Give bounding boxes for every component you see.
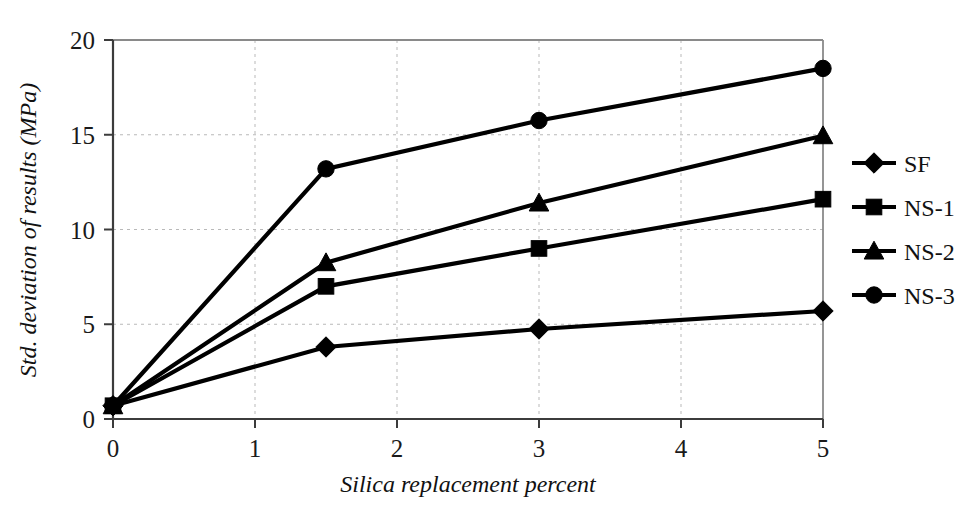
chart-figure: 05101520 012345 Silica replacement perce…: [0, 0, 964, 509]
y-tick-label-5: 5: [83, 311, 96, 338]
y-axis-title: Std. deviation of results (MPa): [15, 83, 41, 377]
data-point-ns-1-3: [815, 191, 831, 207]
chart-background: [0, 0, 964, 509]
x-tick-label-0: 0: [107, 435, 120, 462]
circle-marker-icon: [866, 287, 882, 303]
x-tick-label-1: 1: [249, 435, 262, 462]
data-point-ns-3-3: [815, 60, 831, 76]
legend-label-ns-2: NS-2: [904, 239, 955, 265]
x-tick-label-5: 5: [817, 435, 830, 462]
data-point-ns-1-1: [318, 279, 334, 295]
square-marker-icon: [866, 199, 882, 215]
data-point-ns-3-1: [318, 161, 334, 177]
x-axis-title: Silica replacement percent: [340, 471, 597, 497]
legend-label-ns-3: NS-3: [904, 283, 955, 309]
y-tick-label-10: 10: [70, 217, 95, 244]
x-tick-label-4: 4: [675, 435, 688, 462]
line-chart: 05101520 012345 Silica replacement perce…: [0, 0, 964, 509]
data-point-ns-1-2: [531, 241, 547, 257]
y-tick-label-20: 20: [70, 27, 95, 54]
legend-label-sf: SF: [904, 151, 931, 177]
y-tick-label-15: 15: [70, 122, 95, 149]
x-tick-label-2: 2: [391, 435, 404, 462]
data-point-ns-3-0: [105, 398, 121, 414]
x-tick-label-3: 3: [533, 435, 546, 462]
data-point-ns-3-2: [531, 112, 547, 128]
y-tick-label-0: 0: [83, 406, 96, 433]
legend-label-ns-1: NS-1: [904, 195, 955, 221]
